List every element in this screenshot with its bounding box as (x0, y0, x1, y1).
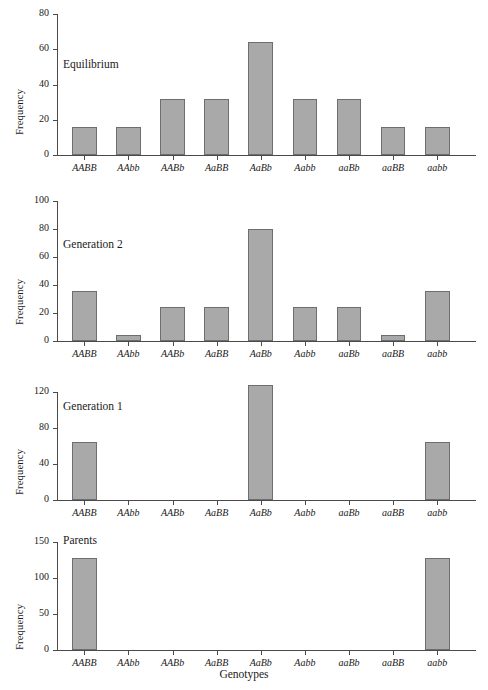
x-tick-generation-1-AaBb (261, 501, 262, 505)
bar-parents-aabb (425, 558, 450, 650)
y-tick-label-generation-1-0: 0 (13, 493, 49, 504)
bar-parents-AABB (72, 558, 97, 650)
x-tick-label-generation-1-aabb: aabb (409, 507, 465, 518)
x-tick-equilibrium-AAbb (128, 156, 129, 160)
x-tick-equilibrium-aaBB (393, 156, 394, 160)
x-tick-generation-2-aaBb (349, 342, 350, 346)
y-tick-generation-2-60 (53, 257, 57, 258)
x-tick-parents-AAbb (128, 651, 129, 655)
y-tick-parents-50 (53, 614, 57, 615)
y-tick-parents-150 (53, 542, 57, 543)
x-tick-label-parents-aabb: aabb (409, 657, 465, 668)
bar-generation-2-aaBb (337, 307, 362, 341)
bar-equilibrium-AABb (160, 99, 185, 155)
y-tick-label-generation-2-40: 40 (13, 278, 49, 289)
y-tick-equilibrium-80 (53, 14, 57, 15)
bar-generation-2-Aabb (293, 307, 318, 341)
y-tick-label-parents-150: 150 (13, 535, 49, 546)
bar-generation-1-aabb (425, 442, 450, 500)
panel-generation-2: Frequency Generation 2 020406080100AABBA… (0, 185, 488, 370)
y-tick-label-generation-2-80: 80 (13, 222, 49, 233)
x-tick-generation-1-aaBb (349, 501, 350, 505)
x-tick-generation-1-AAbb (128, 501, 129, 505)
y-tick-label-equilibrium-60: 60 (13, 42, 49, 53)
y-axis-line-equilibrium (57, 14, 58, 155)
x-axis-line-generation-2 (57, 341, 476, 342)
panel-generation-1: Frequency Generation 1 04080120AABBAAbbA… (0, 370, 488, 528)
y-tick-label-generation-2-60: 60 (13, 250, 49, 261)
x-tick-generation-2-Aabb (305, 342, 306, 346)
y-tick-generation-2-20 (53, 313, 57, 314)
bar-generation-1-AaBb (248, 385, 273, 500)
y-tick-label-parents-100: 100 (13, 571, 49, 582)
x-tick-parents-AABB (84, 651, 85, 655)
x-tick-equilibrium-Aabb (305, 156, 306, 160)
x-tick-generation-1-aabb (437, 501, 438, 505)
multi-panel-bar-chart-figure: Frequency Equilibrium 020406080AABBAAbbA… (0, 0, 488, 690)
bar-equilibrium-AABB (72, 127, 97, 155)
y-tick-label-equilibrium-20: 20 (13, 113, 49, 124)
x-tick-generation-2-AABb (173, 342, 174, 346)
x-axis-line-parents (57, 650, 476, 651)
y-tick-generation-1-80 (53, 428, 57, 429)
y-tick-equilibrium-0 (53, 155, 57, 156)
x-tick-generation-2-AaBB (217, 342, 218, 346)
y-tick-label-generation-2-100: 100 (13, 194, 49, 205)
panel-equilibrium: Frequency Equilibrium 020406080AABBAAbbA… (0, 0, 488, 185)
x-tick-generation-1-Aabb (305, 501, 306, 505)
bar-equilibrium-Aabb (293, 99, 318, 155)
x-tick-equilibrium-AaBB (217, 156, 218, 160)
y-tick-generation-2-0 (53, 341, 57, 342)
y-tick-label-equilibrium-40: 40 (13, 78, 49, 89)
x-tick-generation-2-aaBB (393, 342, 394, 346)
x-tick-equilibrium-AABb (173, 156, 174, 160)
bar-equilibrium-AAbb (116, 127, 141, 155)
y-tick-generation-2-80 (53, 229, 57, 230)
bar-generation-2-AABb (160, 307, 185, 341)
x-axis-title: Genotypes (0, 668, 488, 680)
x-tick-parents-AaBB (217, 651, 218, 655)
bar-equilibrium-aaBB (381, 127, 406, 155)
x-axis-line-equilibrium (57, 155, 476, 156)
y-tick-label-parents-0: 0 (13, 643, 49, 654)
y-tick-label-generation-2-20: 20 (13, 306, 49, 317)
x-tick-label-equilibrium-aabb: aabb (409, 162, 465, 173)
panel-label-generation-1: Generation 1 (63, 400, 123, 412)
bar-equilibrium-aaBb (337, 99, 362, 155)
y-tick-label-generation-2-0: 0 (13, 334, 49, 345)
bar-generation-2-aaBB (381, 335, 406, 341)
bar-generation-1-AABB (72, 442, 97, 500)
y-tick-label-equilibrium-80: 80 (13, 7, 49, 18)
x-tick-parents-Aabb (305, 651, 306, 655)
x-tick-equilibrium-AaBb (261, 156, 262, 160)
y-tick-parents-0 (53, 650, 57, 651)
x-tick-equilibrium-AABB (84, 156, 85, 160)
y-axis-title-generation-1: Frequency (14, 449, 25, 495)
y-tick-generation-1-40 (53, 464, 57, 465)
x-tick-generation-2-AaBb (261, 342, 262, 346)
y-tick-generation-2-40 (53, 285, 57, 286)
x-tick-parents-AABb (173, 651, 174, 655)
x-tick-generation-2-AABB (84, 342, 85, 346)
panel-label-generation-2: Generation 2 (63, 238, 123, 250)
y-tick-equilibrium-60 (53, 49, 57, 50)
x-axis-line-generation-1 (57, 500, 476, 501)
panel-parents: Frequency Parents Genotypes 050100150AAB… (0, 528, 488, 690)
x-tick-parents-aabb (437, 651, 438, 655)
y-tick-label-generation-1-80: 80 (13, 421, 49, 432)
x-tick-label-generation-2-aabb: aabb (409, 348, 465, 359)
bar-generation-2-AAbb (116, 335, 141, 341)
y-axis-line-generation-1 (57, 392, 58, 500)
x-tick-parents-aaBB (393, 651, 394, 655)
x-tick-generation-1-AABB (84, 501, 85, 505)
x-tick-equilibrium-aaBb (349, 156, 350, 160)
x-tick-equilibrium-aabb (437, 156, 438, 160)
x-tick-generation-1-AABb (173, 501, 174, 505)
plot-area-parents (57, 538, 476, 650)
x-tick-parents-aaBb (349, 651, 350, 655)
x-tick-generation-2-aabb (437, 342, 438, 346)
y-tick-generation-1-120 (53, 392, 57, 393)
bar-generation-2-AABB (72, 291, 97, 341)
bar-generation-2-AaBb (248, 229, 273, 341)
y-tick-label-generation-1-120: 120 (13, 385, 49, 396)
